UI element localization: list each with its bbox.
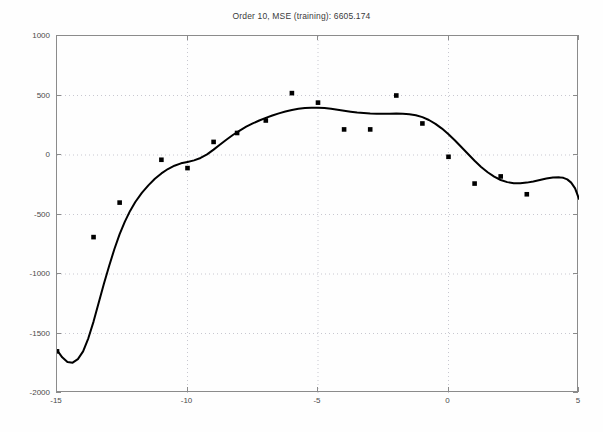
- chart-figure: Order 10, MSE (training): 6605.174 10005…: [0, 0, 603, 432]
- x-axis-tick-mark: [56, 35, 57, 40]
- x-axis-tick-mark: [578, 387, 579, 392]
- y-axis-tick-label: -500: [2, 209, 50, 218]
- y-axis-tick-mark: [56, 392, 61, 393]
- y-axis-tick-label: 500: [2, 90, 50, 99]
- y-axis-tick-mark: [573, 95, 578, 96]
- y-axis-tick-mark: [573, 154, 578, 155]
- y-axis-tick-mark: [56, 273, 61, 274]
- y-axis-tick-mark: [56, 154, 61, 155]
- y-axis-tick-mark: [573, 214, 578, 215]
- grid-lines: [57, 36, 579, 393]
- x-axis-tick-mark: [317, 35, 318, 40]
- x-axis-tick-mark: [448, 387, 449, 392]
- plot-svg: [57, 36, 579, 393]
- x-axis-tick-label: -10: [167, 396, 207, 405]
- x-axis-tick-label: 5: [558, 396, 598, 405]
- x-axis-tick-mark: [187, 35, 188, 40]
- y-axis-tick-mark: [56, 95, 61, 96]
- data-markers: [57, 91, 529, 354]
- x-axis-tick-mark: [578, 35, 579, 40]
- y-axis-tick-label: 0: [2, 150, 50, 159]
- x-axis-tick-mark: [56, 387, 57, 392]
- x-axis-tick-label: 0: [428, 396, 468, 405]
- x-axis-tick-label: -15: [36, 396, 76, 405]
- y-axis-tick-label: -1000: [2, 269, 50, 278]
- y-axis-tick-label: 1000: [2, 31, 50, 40]
- y-axis-tick-mark: [56, 214, 61, 215]
- y-axis-tick-mark: [573, 392, 578, 393]
- y-axis-tick-mark: [573, 273, 578, 274]
- x-axis-tick-mark: [317, 387, 318, 392]
- x-axis-tick-mark: [187, 387, 188, 392]
- y-axis-tick-mark: [56, 333, 61, 334]
- plot-area: [56, 35, 578, 392]
- x-axis-tick-mark: [448, 35, 449, 40]
- x-axis-tick-label: -5: [297, 396, 337, 405]
- y-axis-tick-mark: [573, 333, 578, 334]
- chart-title: Order 10, MSE (training): 6605.174: [0, 11, 603, 21]
- y-axis-tick-label: -1500: [2, 328, 50, 337]
